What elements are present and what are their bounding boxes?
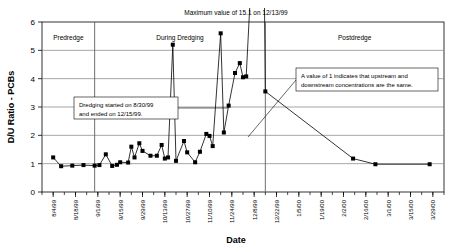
x-tick-label-1: 8/18/99 [73, 199, 79, 220]
data-point-marker [133, 155, 137, 159]
data-point-marker [182, 139, 186, 143]
data-point-marker [244, 74, 248, 78]
data-point-marker [110, 164, 114, 168]
x-tick-label-11: 1/5/00 [296, 199, 302, 216]
band-label-postdredge: Postdredge [338, 34, 372, 42]
band-label-predredge: Predredge [53, 34, 84, 42]
x-tick-label-7: 11/10/99 [207, 199, 213, 223]
data-point-marker [211, 144, 215, 148]
y-tick-label-3: 3 [31, 103, 36, 112]
data-point-marker [129, 145, 133, 149]
data-point-marker [118, 160, 122, 164]
y-axis-title: D/U Ratio - PCBs [6, 71, 16, 144]
data-point-marker [208, 134, 212, 138]
chart-container: 01234568/4/998/18/999/1/999/15/999/29/99… [0, 0, 460, 251]
x-tick-label-4: 9/29/99 [140, 199, 146, 220]
y-tick-label-5: 5 [31, 46, 36, 55]
y-tick-label-6: 6 [31, 18, 36, 27]
data-point-marker [227, 104, 231, 108]
data-point-marker [93, 164, 97, 168]
x-tick-label-12: 1/19/00 [319, 199, 325, 220]
data-point-marker [51, 155, 55, 159]
dredging-dates-note-line-0: Dredging started on 8/30/99 [79, 102, 154, 108]
x-tick-label-14: 2/16/00 [363, 199, 369, 220]
x-tick-label-10: 12/22/99 [274, 199, 280, 223]
dredging-dates-note-line-1: and ended on 12/15/99. [79, 111, 143, 117]
y-tick-label-1: 1 [31, 160, 36, 169]
data-point-marker [137, 141, 141, 145]
data-point-marker [198, 150, 202, 154]
data-point-marker [70, 164, 74, 168]
y-tick-label-4: 4 [31, 75, 36, 84]
data-point-marker [351, 157, 355, 161]
data-point-marker [155, 154, 159, 158]
data-point-marker [81, 163, 85, 167]
data-point-marker [238, 61, 242, 65]
data-point-marker [166, 155, 170, 159]
data-point-marker [233, 71, 237, 75]
x-tick-label-9: 12/8/99 [252, 199, 258, 220]
data-point-marker [104, 152, 108, 156]
data-point-marker [185, 150, 189, 154]
x-tick-label-16: 3/15/00 [408, 199, 414, 220]
data-point-marker [193, 160, 197, 164]
du-ratio-pcbs-line-chart: 01234568/4/998/18/999/1/999/15/999/29/99… [0, 0, 460, 251]
y-tick-label-2: 2 [31, 131, 36, 140]
data-point-marker [59, 164, 63, 168]
x-axis-title: Date [226, 235, 246, 245]
chart-title: Maximum value of 15.1 on 12/13/99 [184, 9, 288, 16]
data-point-marker [160, 143, 164, 147]
data-point-marker [171, 43, 175, 47]
data-point-marker [174, 159, 178, 163]
ratio-meaning-note-line-1: downstream concentrations are the same. [301, 82, 413, 88]
x-tick-label-13: 2/2/00 [341, 199, 347, 216]
data-point-marker [141, 149, 145, 153]
x-tick-label-5: 10/13/99 [162, 199, 168, 223]
data-point-marker [263, 89, 267, 93]
x-tick-label-15: 3/1/00 [386, 199, 392, 216]
data-point-marker [222, 131, 226, 135]
data-point-marker [428, 162, 432, 166]
data-point-marker [126, 161, 130, 165]
x-tick-label-6: 10/27/99 [185, 199, 191, 223]
x-tick-label-8: 11/24/99 [229, 199, 235, 223]
data-point-marker [373, 162, 377, 166]
data-point-marker [97, 163, 101, 167]
y-tick-label-0: 0 [31, 188, 36, 197]
x-tick-label-3: 9/15/99 [118, 199, 124, 220]
x-tick-label-17: 3/29/00 [430, 199, 436, 220]
band-label-during-dredging: During Dredging [156, 34, 204, 42]
ratio-meaning-note-line-0: A value of 1 indicates that upstream and [301, 73, 408, 79]
data-point-marker [219, 31, 223, 35]
x-tick-label-2: 9/1/99 [95, 199, 101, 216]
data-point-marker [148, 154, 152, 158]
x-tick-label-0: 8/4/99 [51, 199, 57, 216]
